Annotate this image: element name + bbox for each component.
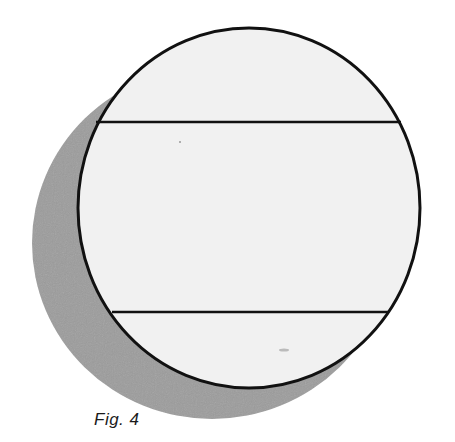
speck bbox=[179, 141, 181, 143]
speck bbox=[279, 349, 289, 352]
figure-caption: Fig. 4 bbox=[94, 410, 140, 430]
figure-illustration bbox=[0, 0, 455, 442]
disc bbox=[78, 28, 420, 388]
